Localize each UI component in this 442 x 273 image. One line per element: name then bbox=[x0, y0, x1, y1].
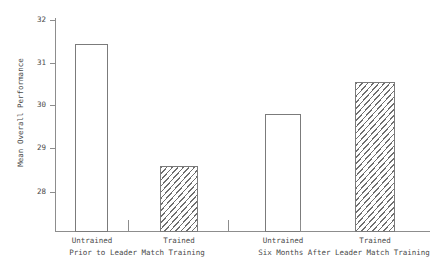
y-tick-label-29-wrap: 29 bbox=[18, 144, 46, 152]
x-tick-mark-1 bbox=[128, 220, 129, 232]
y-tick-label-30-wrap: 30 bbox=[18, 101, 46, 109]
x-tick-mark-0 bbox=[55, 220, 56, 232]
x-tick-mark-3 bbox=[300, 220, 301, 232]
x-group-label-prior: Prior to Leader Match Training bbox=[52, 248, 222, 257]
y-tick-mark-30 bbox=[50, 105, 56, 106]
x-label-trained-prior: Trained bbox=[148, 236, 210, 245]
y-tick-label-28: 28 bbox=[22, 188, 46, 196]
y-tick-mark-29 bbox=[50, 148, 56, 149]
y-tick-label-29: 29 bbox=[22, 144, 46, 152]
y-tick-label-30: 30 bbox=[22, 101, 46, 109]
y-tick-label-28-wrap: 28 bbox=[18, 188, 46, 196]
bar-trained-prior bbox=[160, 166, 198, 232]
y-tick-mark-32 bbox=[50, 20, 56, 21]
plot-area: Mean Overall Performance 32 31 30 29 28 bbox=[0, 0, 442, 273]
y-tick-mark-28 bbox=[50, 192, 56, 193]
y-axis-title: Mean Overall Performance bbox=[16, 48, 25, 178]
x-label-untrained-prior: Untrained bbox=[61, 236, 123, 245]
y-tick-label-32: 32 bbox=[22, 16, 46, 24]
x-tick-mark-2 bbox=[228, 220, 229, 232]
bar-trained-six-months bbox=[355, 82, 395, 232]
y-tick-label-32-wrap: 32 bbox=[18, 16, 46, 24]
y-tick-label-31: 31 bbox=[22, 59, 46, 67]
y-tick-label-31-wrap: 31 bbox=[18, 59, 46, 67]
bar-untrained-prior bbox=[75, 44, 108, 232]
bar-untrained-six-months bbox=[265, 114, 301, 232]
y-tick-mark-31 bbox=[50, 63, 56, 64]
x-label-untrained-six-months: Untrained bbox=[252, 236, 314, 245]
y-axis-line bbox=[55, 18, 56, 232]
x-group-label-six-months: Six Months After Leader Match Training bbox=[248, 248, 440, 257]
x-label-trained-six-months: Trained bbox=[344, 236, 406, 245]
bar-chart: Mean Overall Performance 32 31 30 29 28 bbox=[0, 0, 442, 273]
